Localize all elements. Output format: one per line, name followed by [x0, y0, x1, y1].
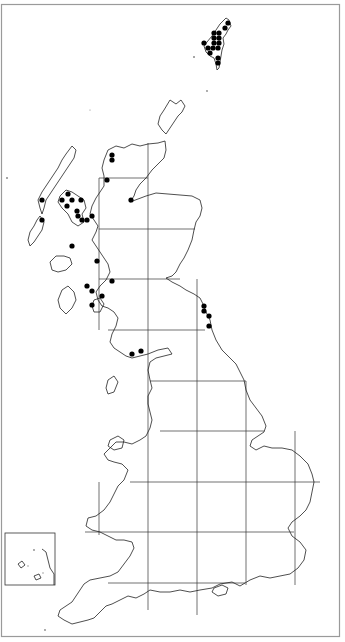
record-dot	[89, 213, 94, 218]
record-dot	[216, 35, 221, 40]
record-dot	[222, 25, 227, 30]
record-dot	[89, 302, 94, 307]
distribution-map	[0, 0, 345, 642]
record-dot	[109, 152, 114, 157]
record-dot	[84, 283, 89, 288]
record-dot	[74, 208, 79, 213]
record-dot	[94, 258, 99, 263]
islets	[6, 56, 208, 631]
record-dot	[129, 351, 134, 356]
map-frame	[2, 5, 340, 637]
record-dot	[225, 20, 230, 25]
record-dot	[99, 293, 104, 298]
record-dot	[201, 40, 206, 45]
coastline	[28, 18, 314, 624]
record-dot	[75, 213, 80, 218]
record-dot	[39, 217, 44, 222]
record-dot	[215, 45, 220, 50]
record-dot	[216, 30, 221, 35]
record-dot	[207, 50, 212, 55]
record-dot	[78, 197, 83, 202]
record-dot	[211, 40, 216, 45]
record-dot	[211, 35, 216, 40]
channel-islands-inset	[5, 533, 55, 585]
record-dot	[215, 60, 220, 65]
record-dot	[216, 40, 221, 45]
record-dot	[128, 197, 133, 202]
record-dot	[206, 313, 211, 318]
record-dot	[211, 30, 216, 35]
record-dot	[206, 323, 211, 328]
record-dot	[205, 45, 210, 50]
record-dot	[69, 243, 74, 248]
record-dot	[64, 203, 69, 208]
record-dot	[39, 197, 44, 202]
record-dot	[79, 217, 84, 222]
record-dot	[65, 191, 70, 196]
record-dot	[210, 45, 215, 50]
record-dot	[215, 55, 220, 60]
record-dot	[109, 278, 114, 283]
record-dot	[89, 288, 94, 293]
record-dot	[84, 217, 89, 222]
record-dots	[39, 20, 230, 356]
record-dot	[109, 157, 114, 162]
record-dot	[59, 197, 64, 202]
grid-lines	[85, 143, 320, 615]
record-dot	[201, 303, 206, 308]
record-dot	[104, 177, 109, 182]
record-dot	[201, 308, 206, 313]
record-dot	[69, 197, 74, 202]
record-dot	[138, 348, 143, 353]
